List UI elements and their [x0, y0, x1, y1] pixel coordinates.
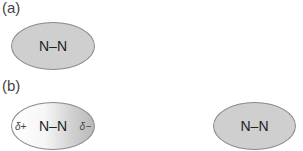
panel-a-molecule-label: N–N	[39, 38, 67, 54]
delta-plus-label: δ+	[15, 121, 26, 132]
delta-minus-label: δ−	[80, 121, 91, 132]
panel-b-label: (b)	[2, 77, 20, 94]
panel-b-polarized-ellipse: δ+ N–N δ−	[11, 102, 95, 150]
panel-b-polarized-molecule-label: N–N	[39, 118, 67, 134]
panel-b-nonpolar-molecule-label: N–N	[240, 118, 268, 134]
panel-b-nonpolar-ellipse: N–N	[213, 102, 296, 150]
panel-a-molecule-ellipse: N–N	[11, 22, 95, 70]
panel-a-label: (a)	[2, 0, 20, 16]
